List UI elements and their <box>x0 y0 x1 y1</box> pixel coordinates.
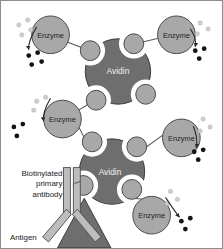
enzyme-mid-right-label: Enzyme <box>168 134 195 143</box>
link-enzyme-mid-right <box>147 134 165 147</box>
substrate-dot <box>198 129 202 133</box>
biotin-low-top-left <box>82 132 102 152</box>
product-dot <box>183 227 188 232</box>
enzyme-top-left-label: Enzyme <box>37 31 64 40</box>
substrate-dot <box>195 32 199 36</box>
biotin-low-bot-right <box>122 180 142 200</box>
substrate-dot <box>201 117 205 121</box>
antibody-label-line3: antibody <box>33 190 63 199</box>
avidin-bottom-label: Avidin <box>99 167 122 177</box>
product-dot <box>197 56 202 61</box>
product-dot <box>26 53 31 58</box>
enzyme-bottom-label: Enzyme <box>138 211 165 220</box>
product-dot <box>20 122 25 127</box>
enzyme-top-right-label: Enzyme <box>163 31 190 40</box>
substrate-dot <box>175 197 179 201</box>
substrate-dot <box>198 21 202 25</box>
substrate-dot <box>29 28 33 32</box>
biotin-bottom-left <box>86 90 106 110</box>
substrate-dot <box>43 95 47 99</box>
antibody-label-line2: primary <box>36 179 62 188</box>
biotin-top-left <box>80 41 100 61</box>
product-dot <box>193 48 198 53</box>
enzyme-top-left: Enzyme <box>32 16 70 54</box>
substrate-dot <box>168 189 172 193</box>
enzyme-bottom: Enzyme <box>133 196 171 234</box>
product-dot <box>192 149 197 154</box>
product-dot <box>14 134 19 139</box>
substrate-dot <box>26 18 30 22</box>
figure-container: Avidin Avidin Enzyme Enzyme <box>0 0 223 249</box>
enzyme-mid-left: Enzyme <box>44 100 82 138</box>
substrate-dot <box>20 33 24 37</box>
product-dot <box>179 219 184 224</box>
substrate-dot <box>34 99 38 103</box>
substrate-dot <box>32 108 36 112</box>
substrate-dot <box>17 23 21 27</box>
product-dot <box>29 62 34 67</box>
antibody-arm-upper-right <box>73 168 80 216</box>
diagram-canvas: Avidin Avidin Enzyme Enzyme <box>1 1 222 248</box>
enzyme-mid-left-label: Enzyme <box>49 115 76 124</box>
product-dot <box>188 216 193 221</box>
biotin-low-top-right <box>127 137 147 157</box>
product-dot <box>196 157 201 162</box>
product-dot <box>201 147 206 152</box>
substrate-dot <box>206 27 210 31</box>
substrate-dot <box>208 125 212 129</box>
product-dot <box>39 59 44 64</box>
product-dot <box>12 125 17 130</box>
antibody-label-line1: Biotinylated <box>22 169 63 178</box>
antibody-arm-upper-left <box>63 168 70 216</box>
enzyme-top-right: Enzyme <box>158 16 196 54</box>
avidin-top-label: Avidin <box>107 66 130 76</box>
product-dot <box>35 50 40 55</box>
antigen-label: Antigen <box>10 233 37 242</box>
product-dot <box>202 46 207 51</box>
biotin-top-right <box>124 34 144 54</box>
biotin-bottom-right <box>136 84 156 104</box>
link-enzyme-top-left <box>66 42 82 48</box>
